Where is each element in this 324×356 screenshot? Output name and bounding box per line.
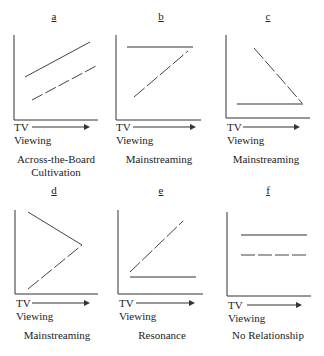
axis-label-viewing: Viewing (116, 134, 153, 146)
axis-label-viewing: Viewing (14, 134, 51, 146)
panel-f: f TV Viewing No Relationship (214, 178, 322, 356)
plot-c (214, 0, 322, 178)
axis-label-viewing: Viewing (119, 310, 156, 322)
plot-a (0, 0, 108, 178)
panel-c: c TV Viewing Mainstreaming (214, 0, 322, 178)
caption: Mainstreaming (3, 329, 111, 342)
plot-b (107, 0, 215, 178)
panel-a: a TV Viewing Across-the-Board Cultivatio… (0, 0, 108, 178)
caption: No Relationship (214, 329, 322, 342)
axis-label-tv: TV (14, 121, 29, 133)
caption: Mainstreaming (105, 153, 213, 166)
axis-label-viewing: Viewing (227, 134, 264, 146)
axis-label-viewing: Viewing (16, 310, 53, 322)
caption: Across-the-Board Cultivation (2, 153, 110, 179)
caption-line-1: No Relationship (214, 329, 322, 342)
axis-label-tv: TV (227, 121, 242, 133)
caption-line-1: Across-the-Board (2, 153, 110, 166)
caption-line-1: Resonance (108, 329, 216, 342)
axis-label-tv: TV (119, 297, 134, 309)
panel-b: b TV Viewing Mainstreaming (107, 0, 215, 178)
panel-d: d TV Viewing Mainstreaming (0, 178, 108, 356)
caption-line-1: Mainstreaming (3, 329, 111, 342)
axis-label-viewing: Viewing (228, 312, 265, 324)
caption: Mainstreaming (212, 153, 320, 166)
axis-label-tv: TV (16, 297, 31, 309)
axis-label-tv: TV (116, 121, 131, 133)
caption-line-1: Mainstreaming (105, 153, 213, 166)
panel-e: e TV Viewing Resonance (107, 178, 215, 356)
caption: Resonance (108, 329, 216, 342)
caption-line-1: Mainstreaming (212, 153, 320, 166)
axis-label-tv: TV (228, 299, 243, 311)
